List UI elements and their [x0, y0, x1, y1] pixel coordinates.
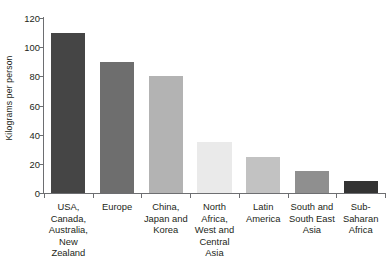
bar-chart: Kilograms per person 020406080100120 USA… — [0, 0, 389, 274]
x-axis-label: Sub-SaharanAfrica — [336, 201, 385, 236]
x-axis-label: LatinAmerica — [239, 201, 288, 224]
x-axis-label-line: Africa, — [190, 213, 239, 225]
x-tick-mark — [288, 194, 289, 198]
x-axis-label-line: Korea — [141, 224, 190, 236]
x-axis-label-line: Canada, — [44, 213, 93, 225]
y-tick-mark — [39, 106, 43, 107]
bar — [344, 181, 378, 193]
x-axis-label-line: New — [44, 236, 93, 248]
x-axis-line — [43, 193, 386, 194]
x-axis-label: NorthAfrica,West andCentralAsia — [190, 201, 239, 259]
x-axis-label-line: Africa — [336, 224, 385, 236]
x-axis-label: China,Japan andKorea — [141, 201, 190, 236]
x-axis-label-line: Australia, — [44, 224, 93, 236]
x-tick-mark — [141, 194, 142, 198]
x-axis-label: USA,Canada,Australia,NewZealand — [44, 201, 93, 259]
x-axis-label-line: Central — [190, 236, 239, 248]
x-axis-label-line: Zealand — [44, 247, 93, 259]
y-tick-mark — [39, 76, 43, 77]
y-tick-mark — [39, 18, 43, 19]
x-axis-label-line: America — [239, 213, 288, 225]
x-axis-label-line: USA, — [44, 201, 93, 213]
x-axis-label-line: Japan and — [141, 213, 190, 225]
x-tick-mark — [336, 194, 337, 198]
y-tick-mark — [39, 193, 43, 194]
x-axis-label-line: South and — [288, 201, 337, 213]
x-axis-label-line: Saharan — [336, 213, 385, 225]
y-tick-label: 100 — [24, 42, 40, 53]
x-tick-mark — [190, 194, 191, 198]
bar — [246, 157, 280, 193]
y-tick-label: 120 — [24, 13, 40, 24]
x-axis-label: South andSouth EastAsia — [288, 201, 337, 236]
x-axis-label-line: Asia — [190, 247, 239, 259]
plot-area — [44, 18, 385, 193]
x-tick-mark — [93, 194, 94, 198]
y-tick-mark — [39, 47, 43, 48]
x-tick-mark — [385, 194, 386, 198]
x-axis-label-line: China, — [141, 201, 190, 213]
y-axis-tick-labels: 020406080100120 — [14, 0, 40, 193]
bar — [295, 171, 329, 193]
bar — [197, 142, 231, 193]
bar — [51, 33, 85, 193]
x-axis-label: Europe — [93, 201, 142, 213]
x-tick-mark — [44, 194, 45, 198]
x-axis-category-labels: USA,Canada,Australia,NewZealandEuropeChi… — [44, 201, 385, 273]
x-axis-label-line: North — [190, 201, 239, 213]
x-axis-label-line: Asia — [288, 224, 337, 236]
y-tick-mark — [39, 135, 43, 136]
x-axis-label-line: West and — [190, 224, 239, 236]
y-tick-mark — [39, 164, 43, 165]
x-tick-mark — [239, 194, 240, 198]
x-axis-label-line: Europe — [93, 201, 142, 213]
x-axis-label-line: Latin — [239, 201, 288, 213]
x-axis-label-line: South East — [288, 213, 337, 225]
y-axis-title-text: Kilograms per person — [4, 55, 14, 140]
bar — [149, 76, 183, 193]
x-axis-label-line: Sub- — [336, 201, 385, 213]
bar — [100, 62, 134, 193]
